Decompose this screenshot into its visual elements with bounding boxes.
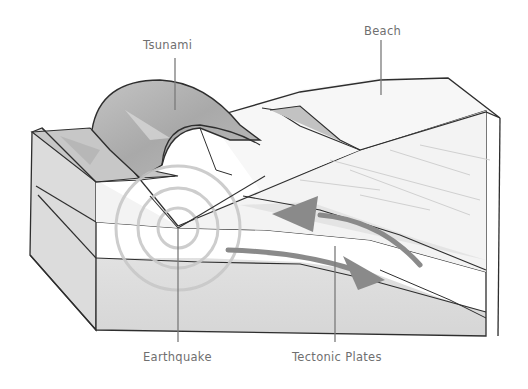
beach-label: Beach <box>364 24 401 38</box>
earthquake-label: Earthquake <box>143 350 212 364</box>
tectonic-plates-label: Tectonic Plates <box>292 350 382 364</box>
tsunami-diagram: Tsunami Beach Earthquake Tectonic Plates <box>0 0 528 389</box>
tsunami-label: Tsunami <box>143 38 192 52</box>
diagram-illustration <box>0 0 528 389</box>
